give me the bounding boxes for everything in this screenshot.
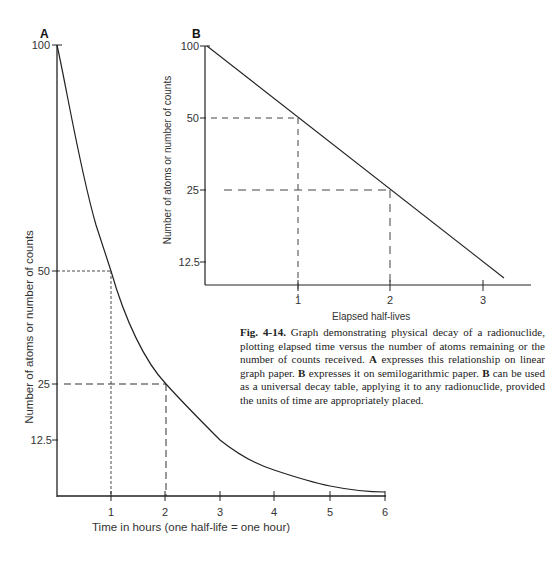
a-xtick-4: 4 (271, 506, 277, 518)
a-ytick-25: 25 (38, 378, 50, 390)
a-xtick-6: 6 (382, 506, 388, 518)
b-x-axis-label: Elapsed half-lives (332, 311, 410, 322)
b-ytick-25: 25 (187, 184, 199, 196)
b-y-axis-label: Number of atoms or number of counts (162, 76, 173, 244)
panel-b-label: B (192, 27, 201, 41)
b-ytick-50: 50 (187, 112, 199, 124)
b-ytick-12-5: 12.5 (179, 256, 200, 268)
caption-fig-number: Fig. 4-14. (240, 326, 286, 338)
caption-ref-b2: B (482, 367, 489, 379)
chart-b: B 100 50 25 12.5 1 2 3 Elapsed half-live… (162, 27, 531, 322)
a-xtick-1: 1 (108, 506, 114, 518)
a-x-axis-label: Time in hours (one half-life = one hour) (92, 521, 290, 533)
figure-canvas: A 100 50 25 12.5 1 2 3 4 5 6 Time in hou… (0, 0, 555, 563)
b-ytick-100: 100 (181, 40, 199, 52)
a-ytick-12-5: 12.5 (31, 434, 52, 446)
b-xtick-3: 3 (480, 294, 486, 306)
caption-ref-a: A (369, 353, 377, 365)
a-decay-curve (57, 45, 385, 492)
a-xtick-2: 2 (162, 506, 168, 518)
caption-text-3: expresses it on semilogarithmic paper. (305, 367, 482, 379)
a-ytick-50: 50 (38, 265, 50, 277)
b-xtick-2: 2 (387, 294, 393, 306)
a-xtick-5: 5 (327, 506, 333, 518)
b-decay-line (207, 46, 504, 278)
figure-caption: Fig. 4-14. Graph demonstrating physical … (240, 326, 545, 408)
a-ytick-100: 100 (32, 39, 50, 51)
a-y-axis-label: Number of atoms or number of counts (23, 230, 35, 424)
a-xtick-3: 3 (217, 506, 223, 518)
